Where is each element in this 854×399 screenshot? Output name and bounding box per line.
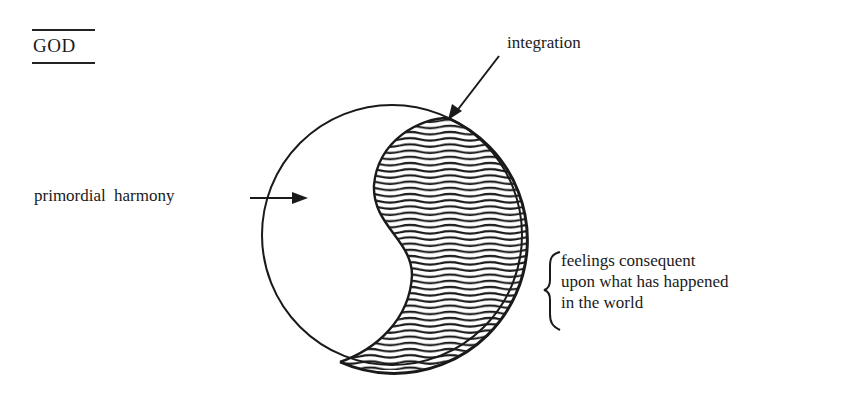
feelings-line-1: feelings consequent — [561, 250, 729, 271]
consequent-feelings-label: feelings consequent upon what has happen… — [561, 250, 729, 313]
primordial-arrow — [250, 192, 308, 204]
feelings-line-2: upon what has happened — [561, 271, 729, 292]
primordial-harmony-label: primordial harmony — [34, 186, 174, 206]
feelings-line-3: in the world — [561, 292, 729, 313]
consequent-nature-region — [330, 100, 530, 373]
integration-arrow — [448, 56, 499, 120]
integration-label: integration — [507, 33, 581, 53]
curly-brace-icon — [544, 252, 560, 330]
